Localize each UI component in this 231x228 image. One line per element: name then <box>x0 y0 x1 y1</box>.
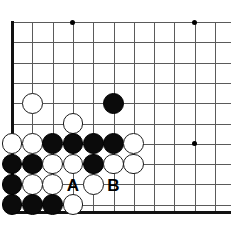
white-stone <box>2 133 23 154</box>
grid-line-horizontal <box>12 83 231 84</box>
black-stone <box>2 174 23 195</box>
white-stone <box>123 133 144 154</box>
grid-line-horizontal <box>12 42 231 43</box>
white-stone <box>22 93 43 114</box>
grid-line-vertical <box>195 22 196 212</box>
star-point <box>70 20 75 25</box>
black-stone <box>22 154 43 175</box>
black-stone <box>83 133 104 154</box>
point-marker-a: A <box>67 176 79 193</box>
star-point <box>192 20 197 25</box>
black-stone <box>103 133 124 154</box>
white-stone <box>22 133 43 154</box>
white-stone <box>22 174 43 195</box>
grid-line-horizontal <box>12 22 231 23</box>
grid-line-vertical <box>174 22 175 212</box>
white-stone <box>123 154 144 175</box>
white-stone <box>63 194 84 215</box>
white-stone <box>83 174 104 195</box>
grid-line-horizontal <box>12 63 231 64</box>
black-stone <box>63 133 84 154</box>
black-stone <box>42 133 63 154</box>
grid-line-horizontal <box>12 124 231 125</box>
white-stone <box>42 154 63 175</box>
grid-line-vertical <box>154 22 155 212</box>
white-stone <box>63 113 84 134</box>
black-stone <box>22 194 43 215</box>
star-point <box>192 141 197 146</box>
grid-line-vertical <box>134 22 135 212</box>
black-stone <box>83 154 104 175</box>
black-stone <box>2 154 23 175</box>
go-board-diagram: AB <box>0 0 231 228</box>
white-stone <box>42 174 63 195</box>
black-stone <box>103 93 124 114</box>
white-stone <box>103 154 124 175</box>
black-stone <box>42 194 63 215</box>
white-stone <box>63 154 84 175</box>
grid-line-vertical <box>215 22 216 212</box>
point-marker-b: B <box>107 176 119 193</box>
